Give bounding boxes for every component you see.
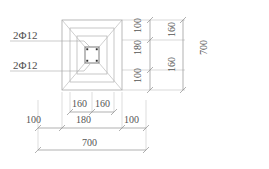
diagonal-bl [62, 63, 85, 90]
dim-bottom-100-left: 100 [26, 115, 41, 125]
rebar-label-bottom: 2Φ12 [13, 60, 38, 71]
dim-right-outer-160-top: 160 [167, 22, 177, 37]
footing-ring-3 [77, 36, 107, 74]
dim-bottom-overall-700: 700 [82, 138, 97, 148]
drawing-canvas: 2Φ12 2Φ12 100 180 100 160 160 700 160 16… [0, 0, 269, 169]
diagonal-br [99, 63, 122, 90]
dim-right-inner-100-top: 100 [133, 18, 143, 33]
diagonal-tr [99, 20, 122, 47]
footing-diagonals-group [62, 20, 122, 90]
dim-right-outer-160-bottom: 160 [167, 57, 177, 72]
right-outer-dimline-group [180, 17, 186, 93]
dim-bottom-100-right: 100 [124, 115, 139, 125]
dim-bottom-180: 180 [76, 115, 91, 125]
leader-tick-top [84, 41, 90, 47]
dim-right-overall-700: 700 [199, 40, 209, 55]
rebar-dot-bl [86, 60, 88, 62]
leader-tick-bottom [84, 64, 90, 71]
dim-right-inner-100-bottom: 100 [133, 68, 143, 83]
rebar-dot-tl [86, 48, 88, 50]
diagonal-tl [62, 20, 85, 47]
rebar-label-top: 2Φ12 [13, 30, 38, 41]
bottom-middle-dimline-group [35, 125, 149, 131]
dim-bottom-160-right: 160 [95, 99, 110, 109]
rebar-dot-br [96, 60, 98, 62]
dim-right-inner-180: 180 [133, 40, 143, 55]
rebar-dot-tr [96, 48, 98, 50]
dim-bottom-160-left: 160 [72, 99, 87, 109]
column-rebar-dots [86, 48, 97, 61]
right-inner-dimline-group [147, 17, 153, 93]
